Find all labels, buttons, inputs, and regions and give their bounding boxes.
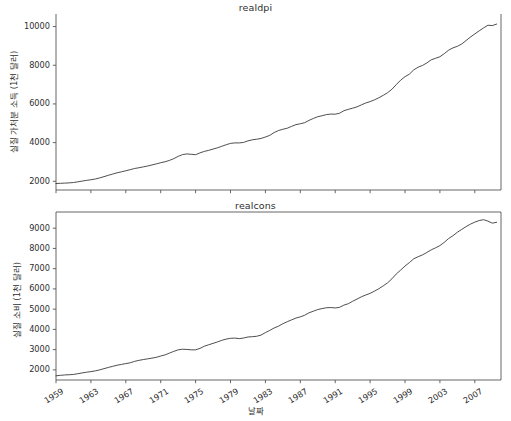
data-line-realcons (56, 220, 497, 376)
subplot-realdpi: realdpi 실질 가처분 소득 (1천 달러) 20004000600080… (0, 0, 511, 200)
subplot-realcons: realcons 실질 소비 (1천 달러) 20003000400050006… (0, 198, 511, 421)
data-line-realdpi (56, 24, 497, 183)
x-axis-label: 날짜 (0, 404, 511, 416)
figure-canvas: realdpi 실질 가처분 소득 (1천 달러) 20004000600080… (0, 0, 511, 421)
plot-area-realdpi (0, 0, 511, 200)
plot-area-realcons (0, 198, 511, 398)
